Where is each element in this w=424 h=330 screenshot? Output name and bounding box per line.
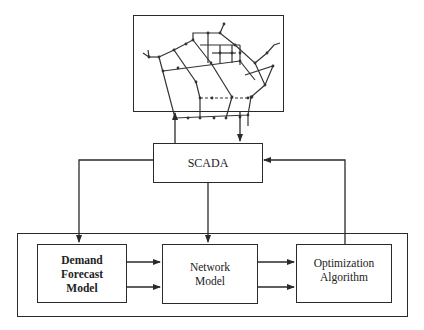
label-line: Model: [195, 274, 225, 288]
demand-forecast-model-box: Demand Forecast Model: [37, 244, 127, 303]
network-model-label: Network Model: [163, 245, 257, 303]
label-line: Forecast: [61, 267, 103, 281]
optimization-algorithm-label: Optimization Algorithm: [297, 245, 391, 302]
label-line: Model: [66, 281, 97, 295]
optimization-algorithm-box: Optimization Algorithm: [296, 244, 392, 303]
arrow-optimization-to-scada: [264, 160, 345, 244]
demand-forecast-model-label: Demand Forecast Model: [38, 245, 126, 302]
scada-box: SCADA: [153, 143, 263, 183]
label-line: Demand: [61, 253, 103, 267]
network-map-box: [133, 15, 284, 112]
label-line: Algorithm: [320, 270, 368, 284]
label-line: Optimization: [314, 256, 375, 270]
arrow-scada-to-demand: [79, 160, 153, 242]
scada-label: SCADA: [154, 144, 262, 182]
label-line: Network: [190, 260, 230, 274]
network-model-box: Network Model: [162, 244, 258, 304]
